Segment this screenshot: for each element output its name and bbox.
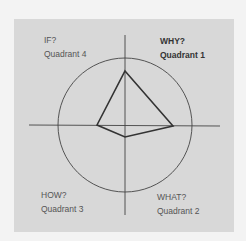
quadrant-3-name: Quadrant 3 bbox=[41, 202, 84, 216]
quadrant-4-question: IF? bbox=[44, 33, 87, 47]
quadrant-4-label: IF? Quadrant 4 bbox=[44, 33, 87, 61]
quadrant-2-name: Quadrant 2 bbox=[157, 204, 200, 218]
quadrant-diagram bbox=[0, 0, 246, 241]
quadrant-4-name: Quadrant 4 bbox=[44, 47, 87, 61]
quadrant-1-name: Quadrant 1 bbox=[160, 48, 205, 62]
quadrant-1-label: WHY? Quadrant 1 bbox=[160, 34, 205, 62]
quadrant-1-question: WHY? bbox=[160, 34, 205, 48]
profile-shape bbox=[97, 71, 173, 137]
quadrant-3-label: HOW? Quadrant 3 bbox=[41, 188, 84, 216]
quadrant-2-label: WHAT? Quadrant 2 bbox=[157, 190, 200, 218]
quadrant-3-question: HOW? bbox=[41, 188, 84, 202]
quadrant-2-question: WHAT? bbox=[157, 190, 200, 204]
